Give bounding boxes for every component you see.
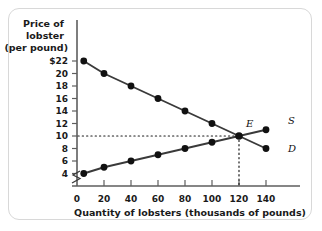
x-tick-label-140: 140 xyxy=(257,194,276,204)
y-tick-label-16: 16 xyxy=(55,94,68,104)
x-tick-label-100: 100 xyxy=(203,194,222,204)
equilibrium-label: E xyxy=(245,118,254,129)
y-tick-label-18: 18 xyxy=(55,81,68,91)
x-tick-label-120: 120 xyxy=(230,194,249,204)
x-tick-label-20: 20 xyxy=(98,194,111,204)
figure-root: Price of lobster (per pound) $22 20 18 1… xyxy=(0,0,322,231)
axis-break-zigzag-icon xyxy=(72,171,80,183)
y-axis-title-line-3: (per pound) xyxy=(4,42,68,53)
x-axis-title: Quantity of lobsters (thousands of pound… xyxy=(74,207,306,218)
supply-demand-chart: Price of lobster (per pound) $22 20 18 1… xyxy=(0,0,322,231)
y-tick-label-20: 20 xyxy=(55,69,68,79)
y-tick-label-8: 8 xyxy=(62,144,68,154)
x-tick-label-80: 80 xyxy=(179,194,192,204)
y-tick-label-22: $22 xyxy=(49,56,68,66)
y-tick-label-4: 4 xyxy=(62,169,68,179)
y-tick-label-12: 12 xyxy=(55,119,68,129)
y-axis-title-line-2: lobster xyxy=(26,30,64,41)
supply-curve-label: S xyxy=(288,115,295,126)
x-tick-label-60: 60 xyxy=(152,194,165,204)
y-tick-label-6: 6 xyxy=(62,156,68,166)
x-axis-ticks xyxy=(104,180,266,186)
equilibrium-point-marker xyxy=(235,132,243,140)
y-axis-title-line-1: Price of xyxy=(23,18,65,29)
x-tick-label-40: 40 xyxy=(125,194,138,204)
x-tick-label-0: 0 xyxy=(74,194,80,204)
y-tick-label-14: 14 xyxy=(55,106,68,116)
demand-curve-label: D xyxy=(287,143,296,154)
y-tick-label-10: 10 xyxy=(55,131,68,141)
